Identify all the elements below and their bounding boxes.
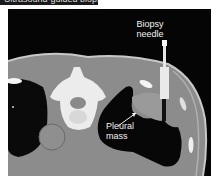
ct-scan-graphic <box>8 9 211 176</box>
annotation-pleural-mass: Pleural mass <box>106 121 142 141</box>
figure-header-text: Ultrasound-guided biopsy <box>4 0 98 4</box>
ct-scan-image: Biopsy needle Pleural mass <box>8 9 211 176</box>
annotation-pleural-mass-line1: Pleural <box>106 121 142 131</box>
annotation-biopsy-needle-line2: needle <box>130 29 170 39</box>
annotation-biopsy-needle-line1: Biopsy <box>130 19 170 29</box>
annotation-biopsy-needle: Biopsy needle <box>130 19 170 39</box>
annotation-pleural-mass-line2: mass <box>106 131 142 141</box>
figure-header-bar: Ultrasound-guided biopsy <box>0 0 98 5</box>
